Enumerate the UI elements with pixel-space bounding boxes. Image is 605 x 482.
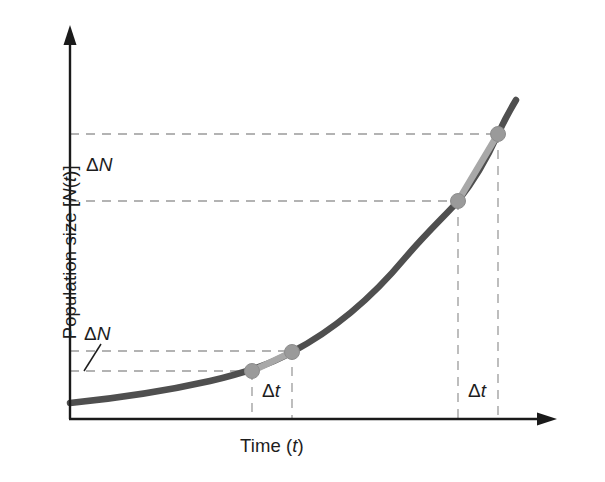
x-axis-arrowhead (537, 413, 557, 426)
marker-dots-group (245, 127, 506, 379)
x-axis-title: Time (t) (240, 437, 304, 456)
marker-dot-late-end (491, 127, 506, 142)
y-axis-title: Population size [N(t)] (61, 102, 80, 402)
delta-n-upper-label: ΔN (86, 155, 112, 174)
delta-t-left-label: Δt (262, 381, 280, 400)
delta-t-right-label: Δt (468, 381, 486, 400)
axes-group (64, 25, 558, 426)
population-growth-plot (0, 0, 605, 482)
marker-dot-early-end (285, 345, 300, 360)
delta-n-lower-leader-line (84, 344, 101, 371)
marker-dot-early-start (245, 364, 260, 379)
delta-n-lower-label: ΔN (84, 324, 110, 343)
y-axis-arrowhead (64, 25, 77, 45)
guide-lines-group (70, 134, 499, 418)
secant-line-late (458, 134, 498, 201)
marker-dot-late-start (451, 194, 466, 209)
figure-container: Population size [N(t)] Time (t) ΔN ΔN Δt… (0, 0, 605, 482)
